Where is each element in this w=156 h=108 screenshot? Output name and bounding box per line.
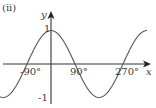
y-tick-neg1: -1 [38,93,48,103]
y-axis-label: y [41,10,47,20]
figure-label: (ii) [2,3,16,13]
x-tick-90: 90° [70,67,88,77]
x-tick-270: 270° [115,67,139,77]
x-tick-neg90: -90° [20,67,41,77]
cosine-graph [0,0,156,108]
x-axis-label: x [146,67,152,77]
y-tick-1: 1 [44,24,50,34]
